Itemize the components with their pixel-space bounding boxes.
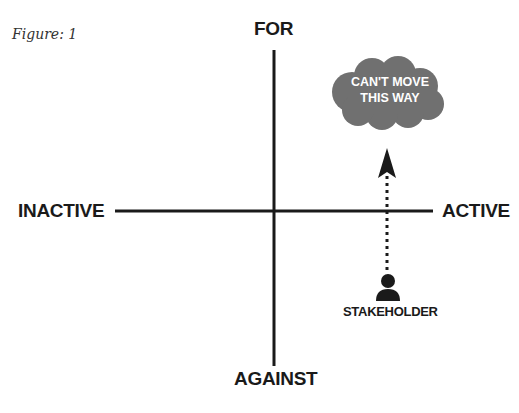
axis-label-for: FOR (254, 18, 293, 40)
arrow-head-icon (378, 148, 396, 178)
axis-label-inactive: INACTIVE (18, 200, 104, 222)
stakeholder-label: STAKEHOLDER (343, 304, 438, 319)
axis-label-against: AGAINST (234, 368, 317, 390)
cloud-label: CAN'T MOVE THIS WAY (340, 74, 440, 106)
person-icon (376, 274, 400, 301)
cloud-line-1: CAN'T MOVE (340, 74, 440, 90)
cloud-line-2: THIS WAY (340, 90, 440, 106)
axis-label-active: ACTIVE (442, 200, 510, 222)
